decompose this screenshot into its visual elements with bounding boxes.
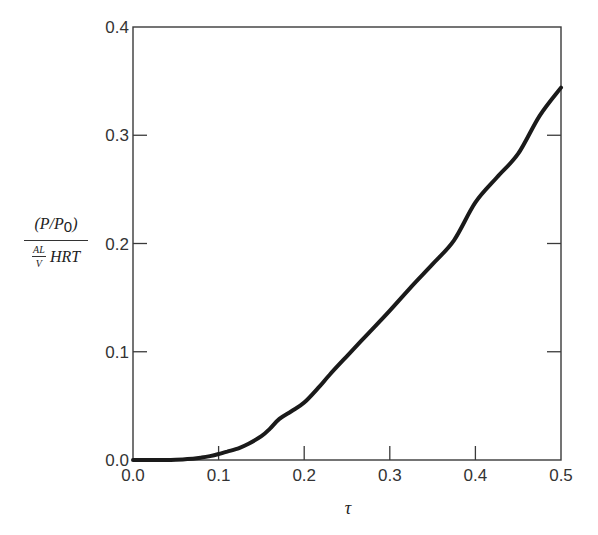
y-label-num-sub: 0	[64, 218, 72, 235]
series-line	[133, 88, 561, 460]
x-tick-label: 0.3	[378, 466, 402, 485]
y-label-mini-fraction: AL V	[32, 244, 46, 269]
y-label-num-main: (P/P	[35, 215, 64, 232]
x-axis-label: τ	[345, 498, 352, 518]
series-lines	[133, 88, 561, 460]
x-tick-label: 0.5	[549, 466, 573, 485]
y-tick-label: 0.1	[105, 343, 129, 362]
y-tick-label: 0.4	[105, 18, 129, 37]
y-tick-label: 0.0	[105, 451, 129, 470]
x-tick-label: 0.1	[207, 466, 231, 485]
plot-border	[133, 27, 561, 460]
x-tick-label: 0.2	[292, 466, 316, 485]
y-tick-label: 0.3	[105, 126, 129, 145]
plot-frame	[133, 27, 561, 460]
y-axis-label-denominator: AL V HRT	[22, 241, 90, 269]
y-label-mini-top: AL	[33, 244, 45, 255]
y-label-den-rest: HRT	[50, 248, 80, 266]
y-axis-label: (P/P0) AL V HRT	[22, 214, 90, 269]
y-label-num-close: )	[72, 215, 77, 232]
y-tick-label: 0.2	[105, 235, 129, 254]
y-tick-labels: 0.00.10.20.30.4	[105, 18, 129, 470]
y-label-mini-bar	[32, 256, 46, 257]
y-axis-label-numerator: (P/P0)	[22, 214, 90, 240]
axis-ticks	[133, 135, 561, 460]
x-tick-labels: 0.00.10.20.30.40.5	[121, 466, 573, 485]
y-label-mini-bottom: V	[36, 258, 42, 269]
x-tick-label: 0.4	[464, 466, 488, 485]
